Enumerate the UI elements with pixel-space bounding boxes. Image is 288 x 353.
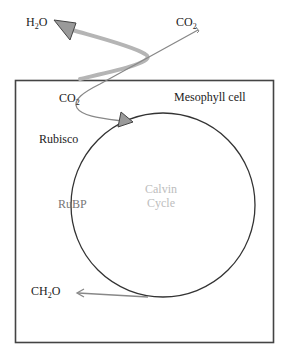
h2o-label: H2O	[26, 16, 47, 28]
diagram-canvas	[0, 0, 288, 353]
co2-inside-label: CO2	[59, 92, 80, 104]
co2-arrowhead-icon	[118, 112, 133, 127]
ch2o-label: CH2O	[31, 285, 60, 297]
mesophyll-cell-label: Mesophyll cell	[174, 91, 246, 103]
calvin-cycle-label: Calvin Cycle	[145, 183, 177, 209]
mesophyll-cell-box	[16, 81, 274, 343]
rubp-label: RuBP	[58, 198, 87, 210]
calvin-label-line2: Cycle	[145, 197, 177, 209]
h2o-arrowhead-icon	[54, 20, 76, 40]
calvin-label-line1: Calvin	[145, 183, 177, 195]
rubisco-label: Rubisco	[39, 133, 78, 145]
co2-outside-label: CO2	[176, 16, 197, 28]
h2o-exit-path	[72, 30, 148, 79]
